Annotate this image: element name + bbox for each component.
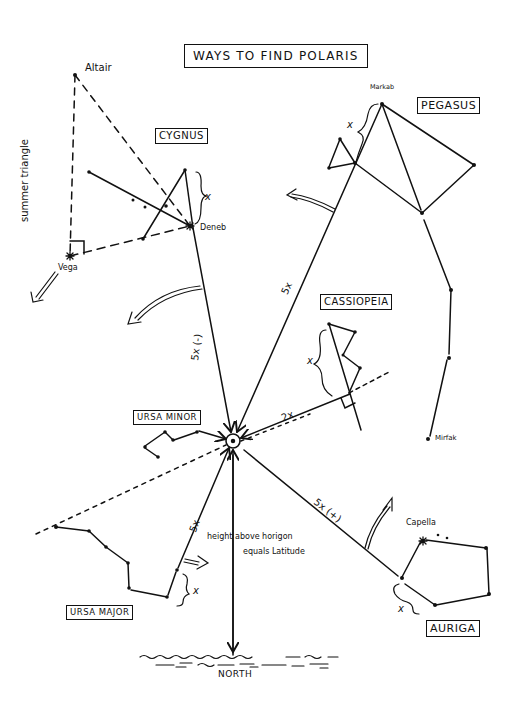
polaris-star — [226, 434, 240, 448]
height-label-line1: height above horigon — [207, 533, 293, 541]
ursa-major-pointer-line — [178, 448, 229, 568]
label-box-auriga: AURIGA — [426, 620, 480, 637]
auriga-label: AURIGA — [430, 622, 476, 635]
ursa-minor-label: URSA MINOR — [137, 412, 197, 422]
x-cygnus-label: x — [205, 192, 211, 202]
cassiopeia-pointer-line — [241, 394, 350, 438]
bright-star-marks — [66, 222, 427, 545]
cassiopeia-label: CASSIOPEIA — [324, 296, 388, 307]
cassiopeia-figure — [314, 324, 389, 430]
label-box-ursa-major: URSA MAJOR — [66, 605, 133, 620]
x-cassiopeia-label: x — [307, 356, 313, 366]
x-auriga-label: x — [398, 604, 404, 614]
ursa-major-figure — [56, 527, 189, 606]
label-box-cassiopeia: CASSIOPEIA — [320, 294, 392, 310]
height-label-line2: equals Latitude — [243, 548, 305, 556]
pegasus-label: PEGASUS — [421, 99, 476, 112]
page-title: WAYS TO FIND POLARIS — [184, 44, 368, 68]
x-pegasus-label: x — [347, 120, 353, 130]
star-altair: Altair — [85, 63, 112, 73]
star-vega: Vega — [58, 264, 78, 272]
pegasus-figure — [329, 104, 474, 436]
cygnus-figure — [89, 170, 207, 239]
markab-pointer-line — [237, 104, 382, 432]
cygnus-label: CYGNUS — [159, 130, 204, 141]
star-deneb: Deneb — [200, 224, 226, 232]
summer-triangle — [70, 75, 190, 256]
label-box-ursa-minor: URSA MINOR — [133, 410, 201, 425]
deneb-pointer-line — [193, 228, 231, 432]
ursa-major-label: URSA MAJOR — [70, 607, 129, 617]
label-box-pegasus: PEGASUS — [417, 97, 480, 114]
summer-triangle-label: summer triangle — [20, 139, 30, 222]
star-mirfak: Mirfak — [435, 435, 457, 442]
ursa-minor-figure — [145, 431, 226, 457]
star-capella: Capella — [406, 519, 436, 527]
x-ursa-major-label: x — [193, 586, 199, 596]
label-box-cygnus: CYGNUS — [155, 128, 208, 144]
horizon-waves — [140, 656, 338, 669]
north-label: NORTH — [218, 670, 252, 679]
star-markab: Markab — [370, 84, 394, 91]
